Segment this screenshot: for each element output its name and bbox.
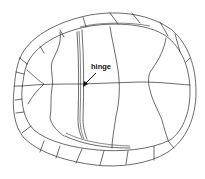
hinge-arrow	[0, 0, 205, 179]
turtle-shell-diagram: hinge	[0, 0, 205, 179]
